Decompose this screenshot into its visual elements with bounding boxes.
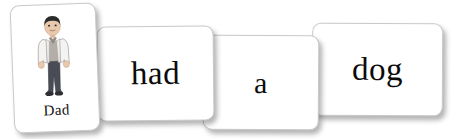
- dad-illustration: [25, 11, 84, 101]
- man-standing-figure-icon: [25, 11, 84, 101]
- flashcard-label-dad: Dad: [14, 100, 99, 120]
- flashcard-word-had: had: [131, 57, 180, 91]
- flashcard-dad[interactable]: Dad: [10, 2, 101, 133]
- flashcard-a[interactable]: a: [203, 35, 320, 131]
- flashcard-had[interactable]: had: [97, 25, 215, 121]
- flashcard-word-a: a: [254, 67, 268, 97]
- flashcard-dog[interactable]: dog: [312, 23, 443, 117]
- flashcard-word-dog: dog: [352, 53, 403, 86]
- flashcard-scene: Dad had a dog: [0, 0, 458, 139]
